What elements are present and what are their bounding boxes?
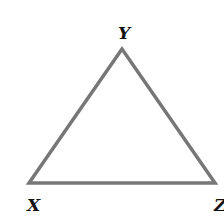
triangle-xyz bbox=[29, 49, 215, 183]
vertex-label-y: Y bbox=[118, 23, 132, 43]
triangle-diagram: Y X Z bbox=[0, 0, 224, 217]
vertex-label-z: Z bbox=[213, 195, 224, 215]
vertex-label-x: X bbox=[26, 195, 41, 215]
